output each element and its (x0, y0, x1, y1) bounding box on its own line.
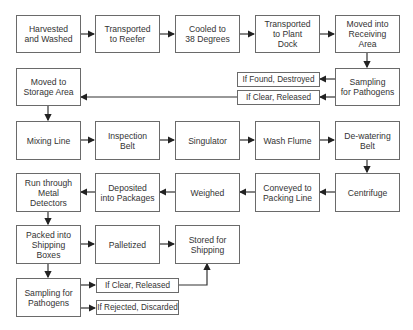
node-transported-to-reefer: Transported to Reefer (95, 15, 160, 53)
outcome-if-clear-released-final: If Clear, Released (96, 278, 179, 293)
node-moved-to-storage-area: Moved to Storage Area (16, 68, 81, 106)
node-moved-into-receiving-area: Moved into Receiving Area (335, 15, 400, 53)
node-harvested-and-washed: Harvested and Washed (16, 15, 81, 53)
outcome-if-clear-released: If Clear, Released (237, 90, 320, 105)
node-deposited-into-packages: Deposited into Packages (95, 173, 160, 212)
node-conveyed-to-packing-line: Conveyed to Packing Line (255, 173, 320, 212)
node-wash-flume: Wash Flume (255, 121, 320, 160)
node-weighed: Weighed (175, 173, 240, 212)
node-sampling-for-pathogens-final: Sampling for Pathogens (16, 278, 81, 317)
outcome-if-found-destroyed: If Found, Destroyed (237, 72, 320, 87)
node-run-through-metal-detectors: Run through Metal Detectors (16, 173, 81, 212)
node-singulator: Singulator (175, 121, 240, 160)
node-mixing-line: Mixing Line (16, 121, 81, 160)
node-stored-for-shipping: Stored for Shipping (175, 225, 240, 264)
node-de-watering-belt: De-watering Belt (335, 121, 400, 160)
node-centrifuge: Centrifuge (335, 173, 400, 212)
outcome-if-rejected-discarded: If Rejected, Discarded (96, 300, 179, 315)
node-sampling-for-pathogens: Sampling for Pathogens (335, 68, 400, 106)
node-cooled-to-38-degrees: Cooled to 38 Degrees (175, 15, 240, 53)
node-transported-to-plant-dock: Transported to Plant Dock (255, 15, 320, 53)
node-palletized: Palletized (95, 225, 160, 264)
node-packed-into-shipping-boxes: Packed into Shipping Boxes (16, 225, 81, 264)
node-inspection-belt: Inspection Belt (95, 121, 160, 160)
